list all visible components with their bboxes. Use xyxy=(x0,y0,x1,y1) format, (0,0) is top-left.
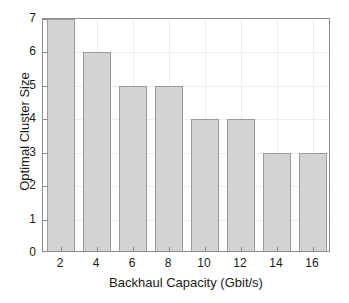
bar xyxy=(47,19,76,252)
x-axis-title: Backhaul Capacity (Gbit/s) xyxy=(42,275,330,290)
bar xyxy=(191,119,220,252)
y-axis-tick xyxy=(43,119,47,120)
y-axis-tick xyxy=(43,186,47,187)
x-axis-tick-label: 2 xyxy=(40,257,80,269)
x-axis-tick xyxy=(169,247,170,251)
x-axis-tick-labels: 246810121416 xyxy=(42,257,330,273)
plot-area xyxy=(42,18,330,252)
y-axis-tick xyxy=(43,86,47,87)
y-axis-title: Optimal Cluster Size xyxy=(17,15,32,249)
x-axis-tick xyxy=(61,247,62,251)
x-axis-tick xyxy=(133,247,134,251)
x-axis-tick-label: 12 xyxy=(220,257,260,269)
bar xyxy=(83,52,112,252)
bar xyxy=(155,86,184,252)
x-axis-tick xyxy=(205,247,206,251)
bar xyxy=(299,153,328,252)
x-axis-tick-label: 10 xyxy=(184,257,224,269)
bar xyxy=(263,153,292,252)
x-axis-tick xyxy=(277,247,278,251)
x-axis-tick-label: 4 xyxy=(76,257,116,269)
x-axis-tick-label: 14 xyxy=(256,257,296,269)
y-axis-tick xyxy=(43,19,47,20)
x-axis-tick-label: 8 xyxy=(148,257,188,269)
x-axis-tick-label: 16 xyxy=(292,257,332,269)
y-axis-tick xyxy=(43,220,47,221)
bar xyxy=(227,119,256,252)
bar-series xyxy=(43,19,329,251)
x-axis-tick-label: 6 xyxy=(112,257,152,269)
bar xyxy=(119,86,148,252)
x-axis-tick xyxy=(241,247,242,251)
y-axis-tick xyxy=(43,153,47,154)
x-axis-tick xyxy=(97,247,98,251)
y-axis-tick xyxy=(43,52,47,53)
chart-figure: 01234567 246810121416 Backhaul Capacity … xyxy=(0,0,349,303)
x-axis-tick xyxy=(313,247,314,251)
